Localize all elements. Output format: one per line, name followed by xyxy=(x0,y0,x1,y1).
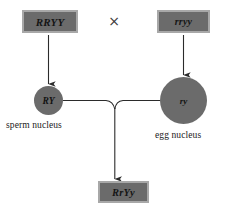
parent-right-genotype-text: rryy xyxy=(175,16,192,27)
line-egg-to-junction xyxy=(115,101,160,110)
egg-nucleus-circle: ry xyxy=(160,77,207,124)
egg-genotype-text: ry xyxy=(180,96,188,106)
offspring-genotype-text: RrYy xyxy=(112,187,135,198)
parent-left-genotype-text: RRYY xyxy=(36,16,65,28)
parent-genotype-box-left: RRYY xyxy=(22,10,78,33)
sperm-nucleus-circle: RY xyxy=(34,86,63,115)
line-sperm-to-junction xyxy=(63,101,115,110)
dihybrid-cross-diagram: RRYY × rryy RY sperm nucleus ry egg nucl… xyxy=(0,0,230,213)
cross-multiplication-symbol: × xyxy=(105,12,123,30)
parent-genotype-box-right: rryy xyxy=(157,10,210,33)
sperm-nucleus-label: sperm nucleus xyxy=(6,120,62,130)
offspring-genotype-box: RrYy xyxy=(98,181,149,203)
egg-nucleus-label: egg nucleus xyxy=(155,130,201,140)
sperm-genotype-text: RY xyxy=(43,96,55,106)
